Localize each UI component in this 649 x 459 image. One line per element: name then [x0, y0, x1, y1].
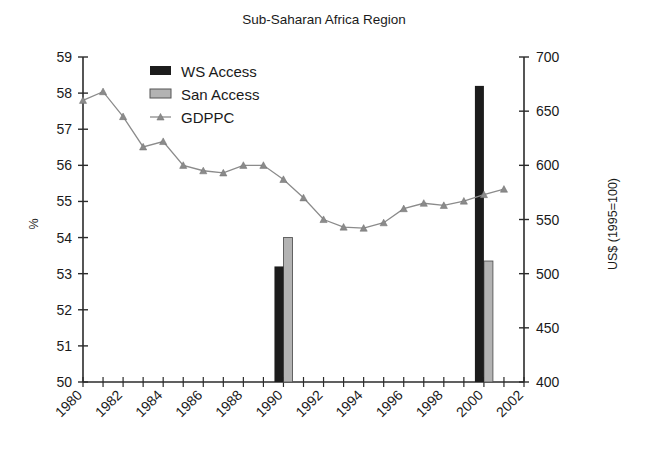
y-tick-label-left: 51 [56, 338, 72, 354]
y-tick-label-right: 450 [536, 320, 560, 336]
y-axis-label-left: % [27, 218, 41, 229]
sub-saharan-africa-region-chart: Sub-Saharan Africa Region 50515253545556… [0, 0, 649, 459]
legend-label: WS Access [181, 63, 257, 80]
bar-ws-access [475, 86, 484, 382]
legend-label: San Access [181, 86, 259, 103]
gdppc-data-point [99, 88, 106, 95]
y-tick-label-right: 400 [536, 374, 560, 390]
y-axis-label-right: US$ (1995=100) [606, 178, 620, 270]
x-tick-label: 1998 [413, 387, 446, 420]
bar-san-access [283, 238, 292, 382]
y-tick-label-left: 57 [56, 121, 72, 137]
y-tick-label-right: 550 [536, 212, 560, 228]
x-axis-ticks: 1980198219841986198819901992199419961998… [52, 377, 526, 420]
y-tick-label-left: 53 [56, 266, 72, 282]
plot-axes [83, 57, 524, 382]
bar-ws-access [274, 266, 283, 382]
y-tick-label-left: 50 [56, 374, 72, 390]
chart-title: Sub-Saharan Africa Region [242, 12, 406, 27]
y-axis-ticks-right: 400450500550600650700 [519, 49, 560, 390]
y-tick-label-left: 55 [56, 193, 72, 209]
chart-legend: WS AccessSan AccessGDPPC [150, 63, 259, 126]
chart-container: Sub-Saharan Africa Region 50515253545556… [0, 0, 649, 459]
x-tick-label: 2002 [493, 387, 526, 420]
y-tick-label-right: 500 [536, 266, 560, 282]
x-tick-label: 1986 [172, 387, 205, 420]
gdppc-data-point [380, 219, 387, 226]
y-tick-label-right: 600 [536, 157, 560, 173]
y-tick-label-left: 59 [56, 49, 72, 65]
y-tick-label-left: 52 [56, 302, 72, 318]
gdppc-data-point [79, 97, 86, 104]
gdppc-line-layer [79, 88, 507, 231]
legend-swatch-ws-access [150, 66, 171, 75]
x-tick-label: 1990 [252, 387, 285, 420]
x-tick-label: 2000 [453, 387, 486, 420]
y-tick-label-left: 58 [56, 85, 72, 101]
y-tick-label-right: 650 [536, 103, 560, 119]
gdppc-data-point [280, 176, 287, 183]
y-tick-label-left: 54 [56, 230, 72, 246]
gdppc-data-point [160, 138, 167, 145]
x-tick-label: 1982 [92, 387, 125, 420]
y-tick-label-left: 56 [56, 157, 72, 173]
gdppc-data-point [500, 186, 507, 193]
x-tick-label: 1988 [212, 387, 245, 420]
legend-swatch-san-access [150, 89, 171, 98]
x-tick-label: 1996 [373, 387, 406, 420]
x-tick-label: 1984 [132, 387, 165, 420]
x-tick-label: 1980 [52, 387, 85, 420]
bar-san-access [484, 261, 493, 382]
x-tick-label: 1992 [292, 387, 325, 420]
bars-layer [274, 86, 492, 382]
x-tick-label: 1994 [332, 387, 365, 420]
legend-label: GDPPC [181, 109, 235, 126]
y-tick-label-right: 700 [536, 49, 560, 65]
